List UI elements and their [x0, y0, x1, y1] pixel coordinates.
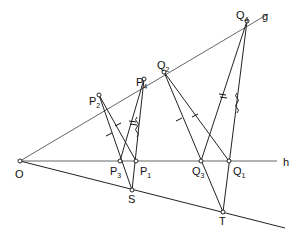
point-t [221, 210, 225, 214]
label-p3: P3 [110, 165, 121, 179]
label-q1: Q1 [233, 165, 246, 179]
label-o: O [15, 168, 24, 180]
point-o [18, 159, 22, 163]
segment-q2-t [164, 72, 223, 212]
point-q3 [199, 159, 203, 163]
curl-mark [136, 117, 139, 137]
diagram-canvas: O P2 P4 Q2 Q4 P3 P1 Q3 Q1 S T g h [0, 0, 306, 240]
segment-p4-p3 [120, 79, 144, 161]
point-p3 [118, 159, 122, 163]
label-s: S [128, 193, 135, 205]
tick-mark [176, 118, 182, 121]
segment-p2-p1 [99, 95, 136, 161]
segment-q2-q1 [164, 72, 229, 161]
label-q4: Q4 [236, 9, 249, 23]
point-p2 [97, 93, 101, 97]
label-p1: P1 [140, 165, 151, 179]
label-line-h: h [283, 156, 289, 168]
geometry-diagram: O P2 P4 Q2 Q4 P3 P1 Q3 Q1 S T g h [0, 0, 306, 240]
point-q1 [227, 159, 231, 163]
label-q3: Q3 [192, 165, 205, 179]
segment-q4-q3 [201, 21, 247, 161]
label-line-g: g [262, 10, 268, 22]
label-q2: Q2 [157, 59, 170, 73]
label-t: T [219, 215, 226, 227]
tick-mark [106, 133, 112, 136]
segment-q4-t [223, 21, 247, 212]
point-s [130, 188, 134, 192]
point-p1 [134, 159, 138, 163]
double-tick-mark [219, 94, 227, 98]
